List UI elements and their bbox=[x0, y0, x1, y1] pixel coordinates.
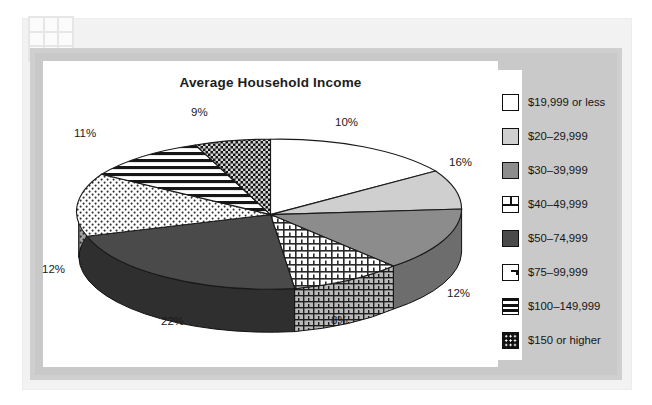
pie-label-150-or-higher: 9% bbox=[191, 106, 208, 118]
legend-label: $20–29,999 bbox=[528, 130, 588, 142]
legend-item-19999-or-less[interactable]: $19,999 or less bbox=[498, 85, 617, 119]
legend-item-100-149999[interactable]: $100–149,999 bbox=[498, 289, 617, 323]
legend-label: $75–99,999 bbox=[528, 266, 588, 278]
screenshot-root: Average Household Income bbox=[0, 0, 652, 405]
dark-gray-swatch-icon bbox=[502, 230, 519, 247]
legend-label: $100–149,999 bbox=[528, 300, 600, 312]
legend-item-150-or-higher[interactable]: $150 or higher bbox=[498, 323, 617, 357]
light-gray-swatch-icon bbox=[502, 128, 519, 145]
legend-item-20-29999[interactable]: $20–29,999 bbox=[498, 119, 617, 153]
pie-label-50-74999: 22% bbox=[161, 315, 184, 327]
legend-item-30-39999[interactable]: $30–39,999 bbox=[498, 153, 617, 187]
medium-gray-swatch-icon bbox=[502, 162, 519, 179]
legend-item-40-49999[interactable]: $40–49,999 bbox=[498, 187, 617, 221]
chart-legend: $19,999 or less $20–29,999 $30–39,999 $4… bbox=[498, 61, 617, 367]
pie-chart-svg bbox=[43, 61, 498, 367]
dotted-swatch-icon bbox=[502, 332, 519, 349]
horizontal-bands-swatch-icon bbox=[502, 298, 519, 315]
chart-plot-area: Average Household Income bbox=[43, 61, 498, 367]
brick-pattern-swatch-icon bbox=[502, 196, 519, 213]
pie-label-40-49999: 8% bbox=[331, 314, 348, 326]
pie-label-30-39999: 12% bbox=[447, 287, 470, 299]
pie-label-20-29999: 16% bbox=[449, 156, 472, 168]
legend-label: $19,999 or less bbox=[528, 96, 605, 108]
pie-label-100-149999: 11% bbox=[74, 127, 96, 139]
legend-label: $30–39,999 bbox=[528, 164, 588, 176]
legend-label: $150 or higher bbox=[528, 334, 601, 346]
legend-label: $50–74,999 bbox=[528, 232, 588, 244]
white-swatch-icon bbox=[502, 94, 519, 111]
notch-pattern-swatch-icon bbox=[502, 264, 519, 281]
legend-item-75-99999[interactable]: $75–99,999 bbox=[498, 255, 617, 289]
pie-chart: 10% 16% 12% 8% 22% 12% 11% 9% bbox=[43, 61, 498, 367]
legend-label: $40–49,999 bbox=[528, 198, 588, 210]
pie-label-75-99999: 12% bbox=[42, 263, 65, 275]
pie-label-19999-or-less: 10% bbox=[335, 116, 358, 128]
legend-item-50-74999[interactable]: $50–74,999 bbox=[498, 221, 617, 255]
